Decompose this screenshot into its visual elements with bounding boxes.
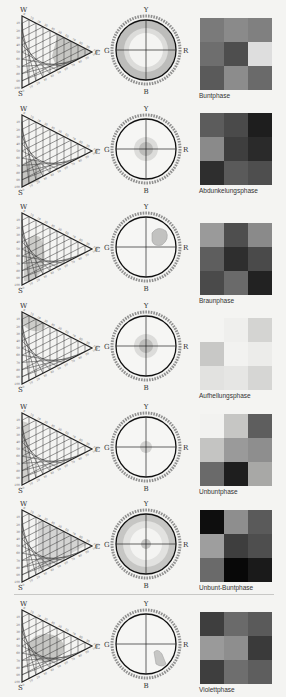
swatch [200, 18, 224, 42]
swatch [224, 18, 248, 42]
label-s: S [18, 189, 23, 195]
svg-text:20: 20 [16, 623, 20, 627]
svg-text:70: 70 [16, 559, 20, 563]
svg-text:80: 80 [16, 469, 20, 473]
svg-text:10: 10 [16, 120, 20, 124]
svg-text:80: 80 [78, 59, 83, 64]
swatch [248, 42, 272, 66]
label-w: W [20, 500, 28, 508]
svg-text:90: 90 [85, 452, 90, 457]
svg-text:10: 10 [29, 578, 34, 583]
label-b: B [143, 187, 148, 195]
hue-circle: YGRB [100, 201, 192, 293]
svg-text:90: 90 [16, 276, 20, 280]
svg-text:90: 90 [16, 573, 20, 577]
svg-text:20: 20 [36, 179, 41, 184]
swatch [200, 137, 224, 161]
label-b: B [143, 285, 148, 293]
swatch [248, 660, 272, 684]
swatch [248, 342, 272, 366]
svg-text:30: 30 [16, 630, 20, 634]
svg-text:50: 50 [57, 564, 62, 569]
svg-text:20: 20 [36, 674, 41, 679]
hue-circle: YGRB [100, 401, 192, 493]
swatch [200, 161, 224, 185]
label-r: R [183, 641, 189, 649]
swatch [224, 558, 248, 582]
swatch [200, 636, 224, 660]
label-w: W [20, 302, 28, 310]
label-s: S [18, 287, 23, 293]
swatch [200, 462, 224, 486]
phase-caption: Aufhellungsphase [199, 392, 251, 399]
svg-text:90: 90 [85, 154, 90, 159]
label-w: W [20, 600, 28, 608]
svg-text:50: 50 [16, 447, 20, 451]
swatch [200, 660, 224, 684]
svg-text:10: 10 [29, 481, 34, 486]
svg-text:80: 80 [78, 553, 83, 558]
swatch [200, 438, 224, 462]
swatch [248, 558, 272, 582]
swatch [224, 612, 248, 636]
svg-text:20: 20 [36, 80, 41, 85]
svg-text:90: 90 [85, 549, 90, 554]
swatch-grid [200, 113, 272, 185]
svg-text:50: 50 [16, 247, 20, 251]
swatch [248, 247, 272, 271]
swatch-grid [200, 18, 272, 90]
swatch [200, 414, 224, 438]
svg-text:70: 70 [71, 62, 76, 67]
phase-row-violettphase: 0010101020202030303040404050505060606070… [0, 598, 286, 693]
svg-text:90: 90 [85, 252, 90, 257]
label-s: S [18, 684, 23, 690]
svg-text:10: 10 [29, 281, 34, 286]
svg-text:20: 20 [16, 128, 20, 132]
label-w: W [20, 403, 28, 411]
label-w: W [20, 203, 28, 211]
svg-text:90: 90 [85, 351, 90, 356]
swatch [224, 247, 248, 271]
swatch [224, 66, 248, 90]
svg-text:10: 10 [29, 183, 34, 188]
svg-text:50: 50 [57, 467, 62, 472]
svg-text:10: 10 [29, 84, 34, 89]
svg-text:80: 80 [78, 653, 83, 658]
svg-text:40: 40 [50, 470, 55, 475]
svg-text:30: 30 [43, 373, 48, 378]
svg-text:60: 60 [16, 353, 20, 357]
svg-text:60: 60 [64, 165, 69, 170]
label-g: G [104, 47, 110, 55]
svg-text:10: 10 [16, 317, 20, 321]
svg-text:30: 30 [43, 671, 48, 676]
swatch [224, 510, 248, 534]
swatch [248, 462, 272, 486]
svg-text:80: 80 [78, 355, 83, 360]
svg-text:80: 80 [16, 269, 20, 273]
swatch [224, 636, 248, 660]
color-triangle: 0010101020202030303040404050505060606070… [8, 401, 103, 493]
svg-text:10: 10 [29, 678, 34, 683]
svg-text:40: 40 [50, 567, 55, 572]
swatch [248, 414, 272, 438]
svg-text:60: 60 [16, 551, 20, 555]
label-r: R [183, 146, 189, 154]
svg-text:50: 50 [57, 664, 62, 669]
label-r: R [183, 541, 189, 549]
label-r: R [183, 343, 189, 351]
svg-text:50: 50 [16, 50, 20, 54]
swatch-grid [200, 612, 272, 684]
svg-text:90: 90 [16, 476, 20, 480]
phase-caption: Unbunt-Buntphase [199, 584, 253, 591]
svg-text:50: 50 [16, 149, 20, 153]
svg-text:50: 50 [16, 346, 20, 350]
svg-text:30: 30 [43, 274, 48, 279]
swatch [224, 414, 248, 438]
label-y: Y [143, 500, 149, 508]
svg-text:60: 60 [64, 560, 69, 565]
swatch [248, 318, 272, 342]
svg-text:40: 40 [50, 73, 55, 78]
svg-text:70: 70 [71, 656, 76, 661]
svg-text:70: 70 [71, 459, 76, 464]
hue-circle: YGRB [100, 300, 192, 392]
